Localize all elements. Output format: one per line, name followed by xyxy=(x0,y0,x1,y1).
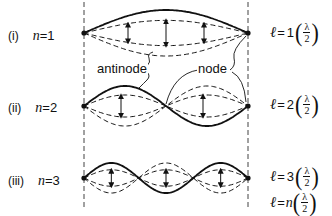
coefficient: 3 xyxy=(287,169,294,184)
left-paren: ( xyxy=(295,166,302,188)
node-pointer-middle xyxy=(166,70,198,104)
fixed-end-dot xyxy=(81,30,86,35)
equals-sign: = xyxy=(277,25,285,40)
mode-3-wave xyxy=(81,163,250,193)
mode-n-value-3: =3 xyxy=(45,173,60,188)
fixed-end-dot xyxy=(81,103,86,108)
mode-n-value-2: =2 xyxy=(42,100,57,115)
mode-n-value-1: =1 xyxy=(40,28,55,43)
left-paren: ( xyxy=(293,192,300,214)
mode-roman-2: (ii) xyxy=(8,101,21,115)
fixed-end-dot xyxy=(245,103,250,108)
mode-1-wave xyxy=(81,10,250,56)
mode-label-3: (iii) n=3 xyxy=(8,171,60,189)
formula-mode-1: ℓ=1(λ2) xyxy=(270,22,319,43)
formula-mode-3: ℓ=3(λ2) xyxy=(270,166,319,187)
mode-label-2: (ii) n=2 xyxy=(8,98,57,116)
lambda-over-two: λ2 xyxy=(301,192,308,213)
right-paren: ) xyxy=(311,166,318,188)
mode-roman-1: (i) xyxy=(8,29,19,43)
equals-sign: = xyxy=(277,169,285,184)
coefficient: n xyxy=(286,195,293,211)
ell-symbol: ℓ xyxy=(270,168,276,185)
right-paren: ) xyxy=(309,192,316,214)
lambda-over-two: λ2 xyxy=(303,166,310,187)
ell-symbol: ℓ xyxy=(270,194,276,211)
node-label: node xyxy=(197,61,228,76)
equals-sign: = xyxy=(277,195,285,210)
equals-sign: = xyxy=(277,97,285,112)
lambda-over-two: λ2 xyxy=(303,22,310,43)
ell-symbol: ℓ xyxy=(270,24,276,41)
fixed-end-dot xyxy=(245,30,250,35)
coefficient: 2 xyxy=(287,97,294,112)
mode-n-symbol-3: n xyxy=(38,173,45,188)
formula-general: ℓ=n(λ2) xyxy=(270,192,317,213)
ell-symbol: ℓ xyxy=(270,96,276,113)
mode-2-wave xyxy=(81,86,250,126)
fixed-end-dot xyxy=(81,175,86,180)
lambda-over-two: λ2 xyxy=(303,94,310,115)
right-paren: ) xyxy=(311,94,318,116)
node-pointer-end1 xyxy=(230,36,246,70)
formula-mode-2: ℓ=2(λ2) xyxy=(270,94,319,115)
right-paren: ) xyxy=(311,22,318,44)
left-paren: ( xyxy=(295,22,302,44)
coefficient: 1 xyxy=(287,25,294,40)
antinode-pointer-up xyxy=(147,52,153,66)
left-paren: ( xyxy=(295,94,302,116)
dashed-wave-curve xyxy=(84,86,248,126)
wave-modes xyxy=(81,10,250,193)
mode-label-1: (i) n=1 xyxy=(8,26,55,44)
antinode-label: antinode xyxy=(96,61,148,76)
fixed-end-dot xyxy=(245,175,250,180)
node-pointer-end2 xyxy=(232,72,246,102)
mode-roman-3: (iii) xyxy=(8,174,24,188)
mode-n-symbol-1: n xyxy=(33,28,40,43)
